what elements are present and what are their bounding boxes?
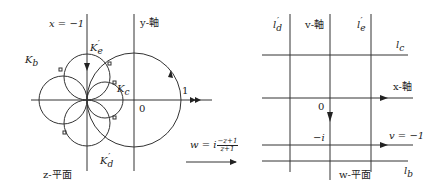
label-z-one: 1 xyxy=(182,86,188,96)
label-minus-i: −i xyxy=(313,133,325,143)
label-prime: ′ xyxy=(361,16,363,26)
label-text: y-軸 xyxy=(140,17,159,28)
label-sub: b xyxy=(407,169,413,179)
right-angle-mark xyxy=(113,81,116,84)
label-lb: lb xyxy=(404,166,413,179)
w-plane xyxy=(262,14,413,180)
label-w-plane: w-平面 xyxy=(339,170,371,180)
z-real-axis-arrow xyxy=(190,97,201,103)
label-prime: ′ xyxy=(98,39,100,49)
w-v-minus-1-arrow xyxy=(380,142,388,148)
formula-prefix: w = i xyxy=(190,139,217,150)
label-sub: c xyxy=(124,87,129,97)
transform-formula: w = i−z+1z+1 xyxy=(190,138,238,153)
label-text: v-軸 xyxy=(305,19,324,30)
label-text: 1 xyxy=(182,85,188,96)
label-Kb: Kb xyxy=(25,55,38,68)
right-angle-mark xyxy=(59,68,62,71)
label-Kc: Kc xyxy=(117,84,130,97)
label-sub: b xyxy=(32,58,38,68)
label-prime: ′ xyxy=(277,16,279,26)
label-text: v = −1 xyxy=(389,130,424,141)
label-z-plane: z-平面 xyxy=(43,170,72,180)
formula-denominator: z+1 xyxy=(217,146,239,153)
label-x-minus-1: x = −1 xyxy=(49,19,84,29)
label-text: 0 xyxy=(318,101,324,112)
label-v-axis: v-軸 xyxy=(305,20,324,30)
label-text: x-軸 xyxy=(393,81,412,92)
right-angle-mark xyxy=(113,116,116,119)
label-w-origin: 0 xyxy=(318,102,324,112)
label-Kd-prime: Kd′ xyxy=(100,153,110,169)
label-le-prime: le′ xyxy=(357,17,363,33)
label-text: x = −1 xyxy=(49,18,84,29)
z-circle-arrow xyxy=(168,70,173,78)
right-angle-mark xyxy=(108,62,111,65)
right-angle-mark xyxy=(63,131,66,134)
label-sub: c xyxy=(399,43,404,53)
label-z-origin: 0 xyxy=(139,104,145,114)
label-lc: lc xyxy=(396,40,404,53)
w-v-axis-arrow-down xyxy=(327,112,333,122)
label-text: w-平面 xyxy=(339,169,371,180)
label-text: −i xyxy=(313,132,325,143)
label-y-axis: y-軸 xyxy=(140,18,159,28)
label-text: z-平面 xyxy=(43,169,72,180)
label-ld-prime: ld′ xyxy=(273,17,279,33)
label-v-minus-1: v = −1 xyxy=(389,131,424,141)
label-prime: ′ xyxy=(108,152,110,162)
label-text: 0 xyxy=(139,103,145,114)
z-line-arrow-down xyxy=(84,63,90,71)
w-x-axis-arrow xyxy=(380,95,388,101)
label-w-x-axis: x-軸 xyxy=(393,82,412,92)
label-Ke-prime: Ke′ xyxy=(90,40,100,56)
formula-fraction: −z+1z+1 xyxy=(217,138,239,153)
